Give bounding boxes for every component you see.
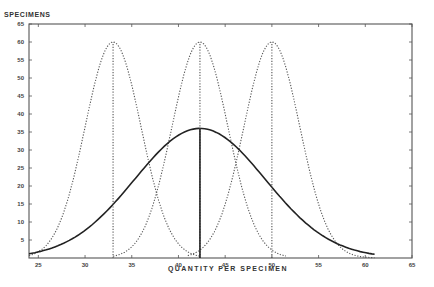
y-tick-label: 55 [17, 57, 24, 63]
y-tick-label: 5 [21, 237, 25, 243]
y-tick-label: 10 [17, 219, 24, 225]
y-tick-label: 25 [17, 165, 24, 171]
x-tick-label: 60 [362, 262, 369, 268]
dotted-curve [29, 42, 200, 256]
y-tick-label: 15 [17, 201, 24, 207]
x-tick-label: 40 [175, 262, 182, 268]
bell-curve-chart: 2530354045505560655101520253035404550556… [0, 0, 434, 287]
solid-curve [29, 128, 375, 254]
plot-frame [29, 24, 412, 258]
x-tick-label: 65 [409, 262, 416, 268]
y-tick-label: 50 [17, 75, 24, 81]
x-tick-label: 55 [315, 262, 322, 268]
y-tick-label: 65 [17, 21, 24, 27]
y-tick-label: 35 [17, 129, 24, 135]
y-tick-label: 60 [17, 39, 24, 45]
x-tick-label: 25 [35, 262, 42, 268]
y-tick-label: 40 [17, 111, 24, 117]
x-tick-label: 45 [222, 262, 229, 268]
x-tick-label: 50 [269, 262, 276, 268]
data-series [29, 42, 375, 258]
x-tick-label: 30 [82, 262, 89, 268]
axis-ticks: 2530354045505560655101520253035404550556… [17, 21, 416, 268]
x-tick-label: 35 [128, 262, 135, 268]
y-tick-label: 30 [17, 147, 24, 153]
y-tick-label: 45 [17, 93, 24, 99]
y-tick-label: 20 [17, 183, 24, 189]
